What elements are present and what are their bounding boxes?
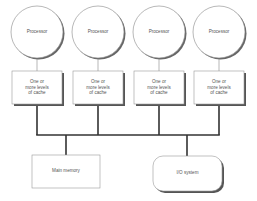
- cache-3-label: One or more levels of cache: [134, 79, 184, 96]
- processor-3-label: Processor: [133, 29, 185, 35]
- cache-2-label: One or more levels of cache: [73, 79, 123, 96]
- cache-3-line3: of cache: [134, 90, 184, 96]
- cache-1-line3: of cache: [12, 90, 62, 96]
- processor-4-label: Processor: [193, 29, 245, 35]
- io-system-label: I/O system: [153, 170, 222, 176]
- cache-1-label: One or more levels of cache: [12, 79, 62, 96]
- cache-4-line3: of cache: [194, 90, 244, 96]
- interconnect-bus: [36, 105, 220, 156]
- main-memory-label: Main memory: [32, 168, 100, 174]
- cache-2-line3: of cache: [73, 90, 123, 96]
- processor-1-label: Processor: [11, 29, 63, 35]
- cache-4-label: One or more levels of cache: [194, 79, 244, 96]
- processor-2-label: Processor: [72, 29, 124, 35]
